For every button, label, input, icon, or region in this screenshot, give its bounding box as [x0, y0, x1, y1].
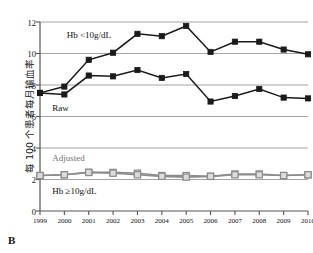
- x-tick-2006: 2006: [204, 217, 218, 225]
- x-tick-2002: 2002: [106, 217, 120, 225]
- hb-high-label: Hb ≥10g/dL: [52, 186, 96, 196]
- x-tick-2001: 2001: [82, 217, 96, 225]
- panel-letter: B: [8, 234, 15, 246]
- x-tick-2004: 2004: [155, 217, 169, 225]
- x-tick-2007: 2007: [228, 217, 242, 225]
- x-tick-2000: 2000: [57, 217, 71, 225]
- x-tick-2008: 2008: [252, 217, 266, 225]
- x-tick-2005: 2005: [179, 217, 193, 225]
- raw-label: Raw: [52, 103, 69, 113]
- x-tick-1999: 1999: [33, 217, 47, 225]
- hb-low-label: Hb <10g/dL: [67, 30, 111, 40]
- x-axis-tick-labels: 1999200020012002200320042005200620072008…: [0, 0, 313, 253]
- x-tick-2010: 2010: [301, 217, 313, 225]
- chart-figure: 每 100 个患者每月输血率 12 10 8 6 4 2 0 199920002…: [0, 0, 313, 253]
- x-tick-2009: 2009: [277, 217, 291, 225]
- x-tick-2003: 2003: [131, 217, 145, 225]
- adjusted-label: Adjusted: [52, 153, 85, 163]
